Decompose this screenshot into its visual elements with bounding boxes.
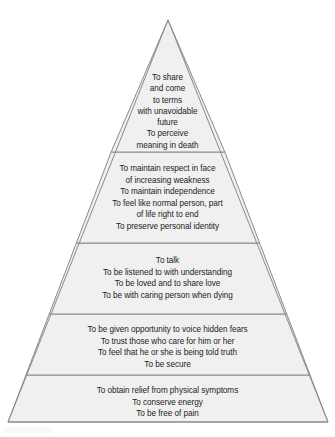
- pyramid-diagram: To share and come to terms with unavoida…: [0, 0, 335, 437]
- pyramid-tier-4-shape: [26, 314, 310, 375]
- pyramid-shape: [0, 0, 335, 437]
- pyramid-tier-1-shape: [111, 20, 225, 152]
- page-scan-artifact: [4, 427, 52, 433]
- pyramid-tier-5-shape: [8, 375, 328, 422]
- pyramid-tier-3-shape: [49, 243, 286, 314]
- pyramid-tier-2-shape: [76, 152, 259, 243]
